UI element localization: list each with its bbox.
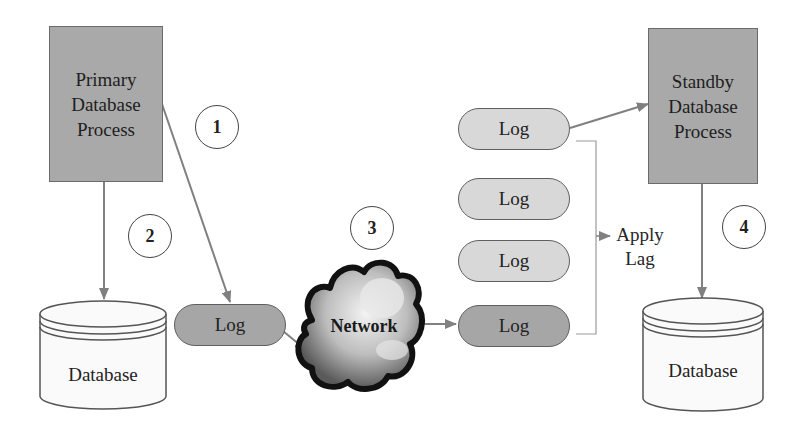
standby-process-label: Standby Database Process	[668, 69, 738, 144]
standby-log-3: Log	[458, 240, 570, 282]
arrow-log-to-standby	[570, 104, 648, 128]
standby-log-4: Log	[458, 305, 570, 347]
standby-database-cylinder	[643, 298, 763, 411]
standby-log-1: Log	[458, 108, 570, 150]
standby-database-process: Standby Database Process	[648, 28, 758, 184]
primary-database-process: Primary Database Process	[49, 26, 163, 182]
step-3-badge: 3	[350, 206, 394, 250]
standby-log-2: Log	[458, 178, 570, 220]
primary-database-label: Database	[40, 364, 166, 386]
step-2-badge: 2	[128, 214, 172, 258]
apply-lag-bracket	[576, 141, 596, 334]
step-1-badge: 1	[195, 105, 239, 149]
primary-log: Log	[174, 304, 286, 346]
primary-database-cylinder	[40, 301, 166, 409]
step-4-badge: 4	[722, 205, 766, 249]
network-label: Network	[312, 316, 416, 337]
apply-lag-label: Apply Lag	[610, 223, 670, 271]
standby-database-label: Database	[643, 360, 763, 382]
primary-process-label: Primary Database Process	[71, 67, 141, 142]
